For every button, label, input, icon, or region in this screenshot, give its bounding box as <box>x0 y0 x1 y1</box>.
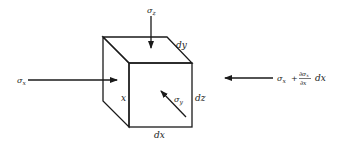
svg-text:∂σx: ∂σx <box>299 70 309 78</box>
stress-cube-diagram: σz dy σx x σy dz dx σx + ∂σx ∂x dx <box>0 0 337 143</box>
sigma-z-arrow: σz <box>147 6 156 48</box>
sigma-x-left-arrow: σx <box>17 76 117 86</box>
x-label: x <box>121 93 126 103</box>
cube <box>103 37 192 127</box>
plus-sign: + <box>291 74 298 83</box>
svg-text:σx: σx <box>17 76 26 86</box>
svg-text:σy: σy <box>174 95 183 106</box>
cube-left-face <box>103 37 129 127</box>
svg-text:σx: σx <box>277 74 286 84</box>
dx-label: dx <box>154 130 165 140</box>
dy-label: dy <box>176 40 188 50</box>
sigma-y-arrow: σy <box>161 91 186 117</box>
dx-right-label: dx <box>315 73 326 83</box>
sigma-x-right-expression: σx + ∂σx ∂x dx <box>277 70 326 86</box>
cube-front-face <box>129 63 192 127</box>
partial-denominator: ∂x <box>300 79 307 86</box>
svg-text:σz: σz <box>147 6 156 16</box>
dz-label: dz <box>195 93 206 103</box>
